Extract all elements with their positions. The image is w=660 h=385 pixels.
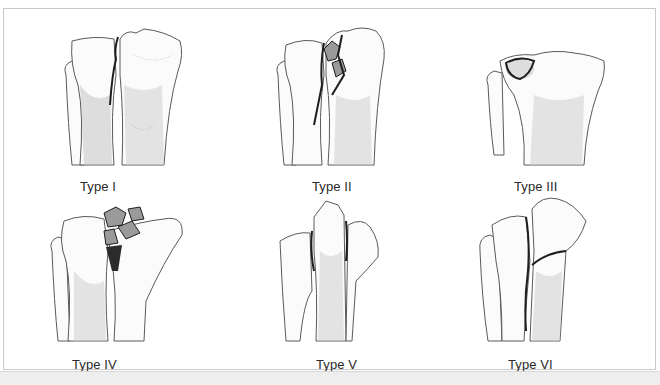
label-type-6: Type VI <box>508 357 553 372</box>
bottom-caption-strip <box>0 371 660 385</box>
label-type-4: Type IV <box>72 357 117 372</box>
tibia-bicondylar-fracture-illustration <box>266 191 466 361</box>
tibia-metaphyseal-dissociation-fracture-illustration <box>470 191 660 361</box>
figure-panel: Type I Type II Type III <box>3 8 656 370</box>
tibia-split-fracture-illustration <box>44 15 244 185</box>
label-type-5: Type V <box>316 357 357 372</box>
tibia-split-depression-fracture-illustration <box>266 15 466 185</box>
tibia-pure-depression-fracture-illustration <box>474 15 660 185</box>
top-margin <box>0 0 660 8</box>
tibia-medial-plateau-fracture-illustration <box>34 191 234 361</box>
